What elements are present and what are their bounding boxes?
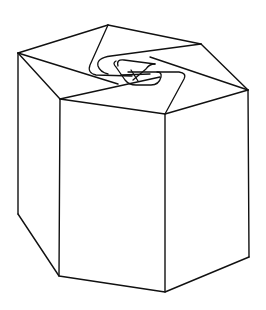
side-edges [18, 53, 249, 292]
flap-edge [201, 44, 248, 90]
bottom-edges [18, 214, 249, 292]
flap-edge [18, 25, 108, 53]
inner-spiral [121, 74, 150, 75]
right-edge [248, 90, 249, 257]
fold-hook [89, 25, 132, 76]
front-left-edge [59, 99, 60, 276]
hexagonal-box-diagram [0, 0, 266, 310]
flap-crease [60, 77, 160, 99]
box-drawing [0, 0, 266, 310]
flap-edge [108, 25, 201, 44]
flap-crease [150, 57, 248, 90]
